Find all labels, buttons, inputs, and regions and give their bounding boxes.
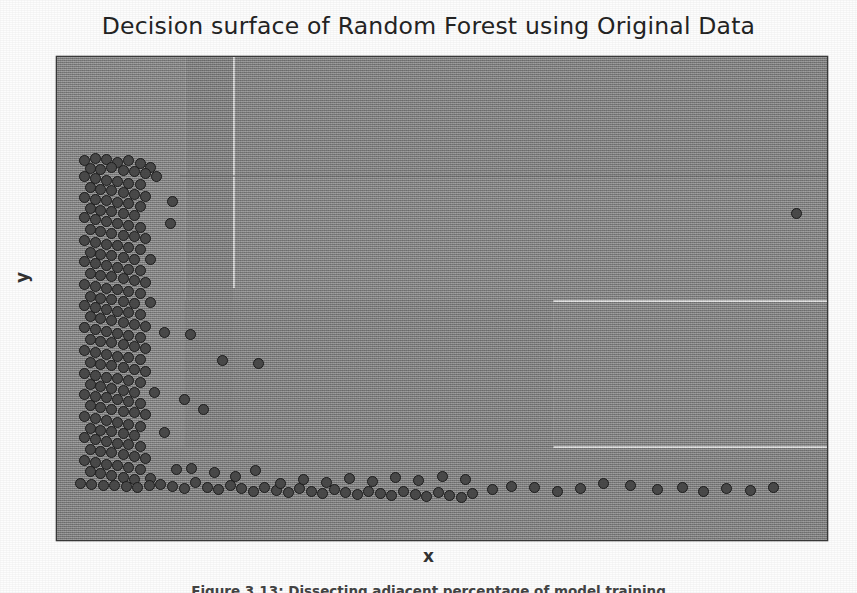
scatter-point: [101, 436, 112, 447]
scatter-point: [198, 404, 209, 415]
scatter-point: [129, 341, 140, 352]
scatter-point: [95, 446, 106, 457]
scatter-point: [85, 182, 96, 193]
scatter-point: [118, 406, 129, 417]
scatter-point: [444, 490, 455, 501]
scatter-point: [140, 366, 151, 377]
scatter-point: [190, 477, 201, 488]
scatter-point: [79, 300, 90, 311]
scatter-point: [118, 187, 129, 198]
figure-caption: Figure 3.13: Dissecting adjacent percent…: [0, 583, 857, 593]
scatter-point: [129, 364, 140, 375]
scatter-point: [85, 444, 96, 455]
scatter-point: [745, 485, 756, 496]
chart-title: Decision surface of Random Forest using …: [0, 12, 857, 40]
scatter-point: [118, 230, 129, 241]
scatter-point: [179, 483, 190, 494]
x-axis-label: x: [0, 546, 857, 566]
scatter-point: [230, 471, 241, 482]
decision-boundary-vertical-main: [233, 57, 235, 288]
scatter-point: [129, 319, 140, 330]
scatter-point: [248, 486, 259, 497]
scatter-point: [106, 185, 117, 196]
scatter-point: [85, 268, 96, 279]
scatter-point: [768, 482, 779, 493]
scatter-point: [101, 239, 112, 250]
scatter-point: [129, 231, 140, 242]
scatter-point: [598, 478, 609, 489]
scatter-point: [217, 355, 228, 366]
scatter-point: [106, 228, 117, 239]
scatter-point: [118, 252, 129, 263]
scatter-point: [85, 224, 96, 235]
decision-region-far-right: [554, 300, 827, 446]
decision-boundary-horizontal-dark: [180, 175, 827, 177]
scatter-point: [118, 165, 129, 176]
scatter-point: [118, 273, 129, 284]
scatter-point: [467, 488, 478, 499]
decision-region-lower-band: [233, 300, 554, 446]
decision-boundary-horizontal-upper-right: [553, 300, 827, 302]
scatter-point: [85, 466, 96, 477]
scatter-point: [149, 387, 160, 398]
scatter-point: [118, 317, 129, 328]
scatter-point: [456, 492, 467, 503]
decision-boundary-horizontal-lower-right: [553, 446, 827, 448]
scatter-point: [487, 484, 498, 495]
decision-boundary-vertical-faint: [185, 57, 186, 300]
scatter-point: [413, 475, 424, 486]
scatter-point: [677, 482, 688, 493]
scatter-point: [106, 470, 117, 481]
scatter-point: [101, 283, 112, 294]
scatter-point: [375, 488, 386, 499]
scatter-point: [129, 254, 140, 265]
scatter-point: [283, 487, 294, 498]
scatter-point: [275, 478, 286, 489]
scatter-point: [85, 400, 96, 411]
scatter-point: [106, 162, 117, 173]
scatter-point: [101, 216, 112, 227]
scatter-point: [140, 191, 151, 202]
scatter-point: [79, 455, 90, 466]
scatter-point: [352, 489, 363, 500]
scatter-point: [118, 362, 129, 373]
scatter-point: [140, 321, 151, 332]
scatter-point: [344, 473, 355, 484]
scatter-point: [118, 449, 129, 460]
decision-boundary-horizontal-low-faint: [185, 446, 554, 447]
scatter-point: [129, 451, 140, 462]
scatter-point: [101, 260, 112, 271]
scatter-point: [79, 368, 90, 379]
scatter-point: [437, 471, 448, 482]
scatter-point: [433, 487, 444, 498]
scatter-point: [118, 296, 129, 307]
scatter-point: [106, 404, 117, 415]
figure-page: Decision surface of Random Forest using …: [0, 0, 857, 593]
scatter-point: [85, 334, 96, 345]
scatter-point: [129, 166, 140, 177]
scatter-point: [123, 220, 134, 231]
scatter-point: [90, 214, 101, 225]
scatter-point: [306, 486, 317, 497]
scatter-point: [185, 329, 196, 340]
scatter-point: [298, 474, 309, 485]
decision-region-upper-right: [233, 57, 827, 175]
scatter-point: [112, 218, 123, 229]
scatter-point: [79, 212, 90, 223]
scatter-point: [129, 275, 140, 286]
scatter-point: [179, 394, 190, 405]
scatter-point: [460, 474, 471, 485]
plot-area: [57, 57, 827, 540]
decision-region-mid-right: [233, 175, 827, 300]
scatter-point: [79, 192, 90, 203]
scatter-point: [85, 311, 96, 322]
scatter-point: [321, 477, 332, 488]
y-axis-label: y: [12, 272, 32, 283]
scatter-point: [129, 407, 140, 418]
scatter-point: [85, 357, 96, 368]
scatter-point: [106, 315, 117, 326]
scatter-point: [367, 476, 378, 487]
scatter-point: [98, 480, 109, 491]
scatter-point: [390, 472, 401, 483]
scatter-point: [202, 482, 213, 493]
